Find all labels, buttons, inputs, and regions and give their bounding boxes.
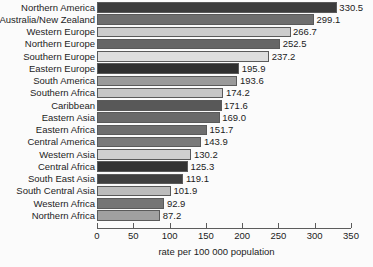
bar bbox=[97, 210, 160, 221]
x-axis-title: rate per 100 000 population bbox=[0, 246, 373, 257]
bar bbox=[97, 51, 269, 62]
bar-value-label: 130.2 bbox=[191, 149, 217, 161]
plot-area: Northern America330.5Australia/New Zeala… bbox=[0, 0, 373, 267]
bar-row: Western Asia130.2 bbox=[0, 149, 373, 161]
bar-value-label: 92.9 bbox=[164, 198, 185, 210]
bar-row: Western Europe266.7 bbox=[0, 26, 373, 38]
bar-row: Central Africa125.3 bbox=[0, 161, 373, 173]
x-axis-tick bbox=[315, 223, 316, 228]
x-axis-tick-label: 100 bbox=[155, 230, 185, 241]
bar-row: Australia/New Zealand299.1 bbox=[0, 14, 373, 26]
bar-value-label: 87.2 bbox=[160, 210, 181, 222]
x-axis-tick bbox=[278, 223, 279, 228]
bar-value-label: 330.5 bbox=[337, 2, 363, 14]
bar bbox=[97, 186, 171, 197]
bar-value-label: 151.7 bbox=[207, 124, 233, 136]
bar-value-label: 195.9 bbox=[239, 63, 265, 75]
x-axis-line bbox=[97, 228, 351, 229]
bar-row: South East Asia119.1 bbox=[0, 173, 373, 185]
x-axis-tick-label: 200 bbox=[227, 230, 257, 241]
category-label: South America bbox=[33, 75, 95, 87]
bar bbox=[97, 76, 237, 87]
bar-row: Caribbean171.6 bbox=[0, 100, 373, 112]
bar bbox=[97, 161, 188, 172]
bar-value-label: 101.9 bbox=[171, 185, 197, 197]
bar-value-label: 143.9 bbox=[201, 136, 227, 148]
bar-row: Northern Africa87.2 bbox=[0, 210, 373, 222]
category-label: Northern Africa bbox=[32, 210, 95, 222]
x-axis-tick-label: 300 bbox=[300, 230, 330, 241]
bar bbox=[97, 174, 183, 185]
category-label: Eastern Asia bbox=[42, 112, 95, 124]
bar-value-label: 125.3 bbox=[188, 161, 214, 173]
category-label: Western Asia bbox=[39, 149, 95, 161]
bar-row: Southern Africa174.2 bbox=[0, 87, 373, 99]
category-label: Central Africa bbox=[38, 161, 95, 173]
category-label: Western Africa bbox=[33, 198, 95, 210]
x-axis-tick-label: 350 bbox=[336, 230, 366, 241]
bar-row: Northern America330.5 bbox=[0, 2, 373, 14]
x-axis-tick bbox=[206, 223, 207, 228]
category-label: Western Europe bbox=[27, 26, 95, 38]
x-axis-tick bbox=[242, 223, 243, 228]
category-label: South Central Asia bbox=[16, 185, 95, 197]
category-label: South East Asia bbox=[28, 173, 95, 185]
bar bbox=[97, 149, 191, 160]
bar-row: South America193.6 bbox=[0, 75, 373, 87]
x-axis-tick-label: 50 bbox=[118, 230, 148, 241]
bar bbox=[97, 63, 239, 74]
x-axis-tick-label: 250 bbox=[263, 230, 293, 241]
bar-row: South Central Asia101.9 bbox=[0, 185, 373, 197]
bar-value-label: 299.1 bbox=[314, 14, 340, 26]
category-label: Eastern Europe bbox=[29, 63, 95, 75]
bar-value-label: 266.7 bbox=[291, 26, 317, 38]
category-label: Northern America bbox=[21, 2, 95, 14]
bar-chart: Northern America330.5Australia/New Zeala… bbox=[0, 0, 373, 267]
bar-row: Eastern Africa151.7 bbox=[0, 124, 373, 136]
category-label: Central America bbox=[27, 136, 95, 148]
category-label: Australia/New Zealand bbox=[0, 14, 95, 26]
bar bbox=[97, 2, 337, 13]
bar bbox=[97, 39, 280, 50]
x-axis-tick bbox=[170, 223, 171, 228]
bar-value-label: 252.5 bbox=[280, 38, 306, 50]
x-axis-tick-label: 0 bbox=[82, 230, 112, 241]
bar-value-label: 171.6 bbox=[222, 100, 248, 112]
bar bbox=[97, 14, 314, 25]
bar-row: Northern Europe252.5 bbox=[0, 38, 373, 50]
category-label: Southern Europe bbox=[23, 51, 95, 63]
bar-row: Southern Europe237.2 bbox=[0, 51, 373, 63]
bar bbox=[97, 112, 220, 123]
x-axis-tick bbox=[351, 223, 352, 228]
x-axis-tick bbox=[97, 223, 98, 228]
bar bbox=[97, 100, 222, 111]
bar-row: Central America143.9 bbox=[0, 136, 373, 148]
bar-row: Eastern Europe195.9 bbox=[0, 63, 373, 75]
bar bbox=[97, 88, 223, 99]
bar-value-label: 119.1 bbox=[183, 173, 209, 185]
x-axis-tick-label: 150 bbox=[191, 230, 221, 241]
category-label: Eastern Africa bbox=[36, 124, 95, 136]
bar-row: Eastern Asia169.0 bbox=[0, 112, 373, 124]
bar-value-label: 169.0 bbox=[220, 112, 246, 124]
bar-value-label: 193.6 bbox=[237, 75, 263, 87]
bar-row: Western Africa92.9 bbox=[0, 198, 373, 210]
bar bbox=[97, 125, 207, 136]
category-label: Caribbean bbox=[51, 100, 95, 112]
bar-value-label: 174.2 bbox=[223, 87, 249, 99]
x-axis-tick bbox=[133, 223, 134, 228]
bar bbox=[97, 198, 164, 209]
category-label: Northern Europe bbox=[25, 38, 95, 50]
category-label: Southern Africa bbox=[30, 87, 95, 99]
bar-value-label: 237.2 bbox=[269, 51, 295, 63]
bar bbox=[97, 137, 201, 148]
bar bbox=[97, 27, 291, 38]
